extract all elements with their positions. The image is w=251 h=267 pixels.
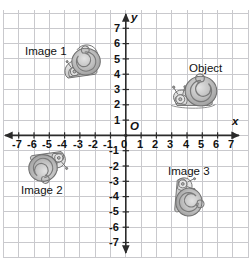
x-tick--2: -2 [88,139,98,150]
y-tick--7: -7 [109,237,119,248]
y-tick-7: 7 [114,23,120,34]
snail-object [171,74,217,108]
callout-object: Object [189,63,222,75]
origin-label: O [130,121,139,133]
y-tick--5: -5 [109,206,119,217]
x-tick-6: 6 [213,139,219,150]
grid-svg [0,0,251,267]
snail-image-1 [62,43,103,78]
y-tick--1: -1 [109,145,119,156]
y-tick-5: 5 [114,54,120,65]
snail-image-2 [27,151,69,185]
callout-image-1: Image 1 [25,46,67,58]
x-tick--7: -7 [12,139,22,150]
origin-dot [124,134,127,137]
x-tick-3: 3 [167,139,173,150]
x-tick--5: -5 [42,139,52,150]
y-tick-1: 1 [114,115,120,126]
y-tick-2: 2 [114,99,120,110]
x-tick-4: 4 [183,139,189,150]
x-tick--6: -6 [27,139,37,150]
x-tick-1: 1 [137,139,143,150]
y-tick-6: 6 [114,38,120,49]
y-tick--3: -3 [109,176,119,187]
y-tick--2: -2 [109,161,119,172]
x-tick-0: 0 [121,139,127,150]
x-axis-label: x [232,116,238,128]
snail-image-3 [174,176,206,217]
y-axis-label: y [131,12,137,24]
callout-image-2: Image 2 [21,185,63,197]
x-tick--3: -3 [73,139,83,150]
y-tick--4: -4 [109,191,119,202]
y-tick-3: 3 [114,84,120,95]
y-tick-4: 4 [114,69,120,80]
x-tick-5: 5 [198,139,204,150]
x-tick--4: -4 [57,139,67,150]
x-tick-2: 2 [152,139,158,150]
coordinate-plane-figure: x y O -7 -6 -5 -4 -3 -2 -1 0 1 2 3 4 5 6… [0,0,251,267]
y-tick--6: -6 [109,222,119,233]
callout-image-3: Image 3 [168,166,210,178]
x-tick-7: 7 [228,139,234,150]
